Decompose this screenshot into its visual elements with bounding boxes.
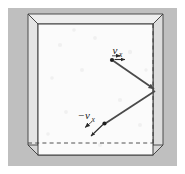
box-right-face (153, 14, 163, 155)
label-incoming-subscript: x (118, 50, 123, 59)
box-top-face (28, 14, 163, 24)
diagram-canvas: v x − v x (0, 0, 185, 174)
label-incoming-symbol: v (113, 44, 118, 56)
physics-diagram-figure: v x − v x (0, 0, 185, 174)
label-outgoing-sign: − (78, 109, 84, 121)
molecule-dot-incoming (110, 58, 114, 62)
box-left-face (28, 14, 38, 155)
label-outgoing-symbol: v (85, 109, 90, 121)
box-front-face (38, 24, 153, 155)
